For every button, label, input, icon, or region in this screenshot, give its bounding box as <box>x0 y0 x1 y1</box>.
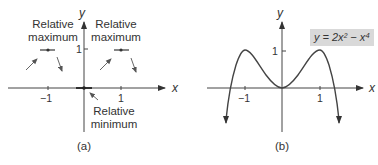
panel-b: y = 2x² − x⁴ x y 1 −1 1 (b) <box>207 6 376 152</box>
relative-max-point <box>119 48 122 51</box>
y-axis-label: y <box>276 6 284 20</box>
panel-a: x y 1 −1 1 Relative maximum Relative max… <box>8 6 179 152</box>
min-pointer-arrow <box>90 93 98 100</box>
relative-min-point <box>82 86 86 90</box>
annotation-min-1: Relative <box>93 105 135 117</box>
decreasing-arrow <box>57 57 62 71</box>
x-tick-1: 1 <box>317 92 323 104</box>
decreasing-arrow <box>131 58 136 72</box>
caption-a: (a) <box>77 140 91 152</box>
x-tick-1: 1 <box>118 92 124 104</box>
x-axis-label: x <box>368 81 376 95</box>
annotation-right-max-2: maximum <box>91 31 141 43</box>
equation-label: y = 2x² − x⁴ <box>313 31 370 43</box>
y-tick-1: 1 <box>272 45 278 57</box>
annotation-right-max-1: Relative <box>95 18 137 30</box>
annotation-left-max-2: maximum <box>28 31 78 43</box>
annotation-left-max-1: Relative <box>32 18 74 30</box>
relative-max-point <box>46 48 49 51</box>
y-tick-1: 1 <box>76 43 82 55</box>
x-tick-neg1: −1 <box>238 92 250 104</box>
increasing-arrow <box>100 59 111 70</box>
caption-b: (b) <box>275 140 289 152</box>
x-axis-label: x <box>171 81 179 95</box>
increasing-arrow <box>26 59 37 70</box>
x-tick-neg1: −1 <box>40 92 52 104</box>
figure: x y 1 −1 1 Relative maximum Relative max… <box>0 0 378 165</box>
annotation-min-2: minimum <box>91 118 138 130</box>
y-axis-label: y <box>78 6 86 20</box>
